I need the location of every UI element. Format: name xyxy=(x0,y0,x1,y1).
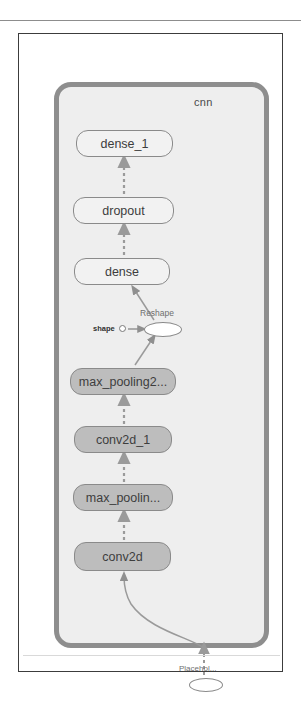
graph-node-shape-port[interactable] xyxy=(119,325,126,332)
node-label: dropout xyxy=(102,204,144,218)
node-label: dense_1 xyxy=(101,137,149,151)
graph-node-dense-1[interactable]: dense_1 xyxy=(76,130,173,157)
graph-node-max-pooling2d-1[interactable]: max_pooling2... xyxy=(70,368,176,395)
graph-node-shape-label: shape xyxy=(93,324,115,333)
graph-node-reshape[interactable] xyxy=(144,322,182,337)
page-top-rule xyxy=(0,20,301,21)
figure-frame: cnn dense_1 xyxy=(18,33,283,672)
graph-node-dropout[interactable]: dropout xyxy=(73,197,174,224)
graph-node-conv2d-1[interactable]: conv2d_1 xyxy=(74,426,172,453)
graph-node-placeholder[interactable] xyxy=(189,678,223,692)
node-label: dense xyxy=(105,265,139,279)
graph-node-placeholder-label: Placehol... xyxy=(179,664,216,673)
node-label: max_poolin... xyxy=(86,491,160,505)
cnn-subgraph-label: cnn xyxy=(194,96,213,108)
node-label: conv2d xyxy=(102,550,142,564)
figure-bottom-rule xyxy=(23,655,280,656)
node-label: max_pooling2... xyxy=(79,375,167,389)
node-label: conv2d_1 xyxy=(96,433,150,447)
graph-node-dense[interactable]: dense xyxy=(74,258,170,285)
graph-node-conv2d[interactable]: conv2d xyxy=(74,542,171,571)
graph-node-max-pooling2d[interactable]: max_poolin... xyxy=(73,484,173,511)
graph-node-reshape-label: Reshape xyxy=(140,308,174,318)
